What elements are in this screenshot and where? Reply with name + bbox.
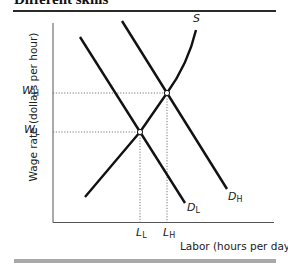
ll-tick-label: LL [136,226,147,240]
x-axis-label: Labor (hours per day) [180,240,288,252]
demand-low-label: DL [187,201,200,215]
demand-high-curve [122,21,227,189]
wl-tick-label: WL [24,123,39,137]
y-axis-label: Wage rate (dollars per hour) [27,33,39,182]
wh-tick-label: WH [22,84,39,98]
equilibrium-low-point [137,129,142,134]
equilibrium-high-point [164,90,169,95]
demand-high-label: DH [228,190,243,204]
supply-curve-label: S [193,12,200,25]
bottom-divider [14,259,276,263]
lh-tick-label: LH [163,226,175,240]
demand-low-curve [80,37,185,203]
